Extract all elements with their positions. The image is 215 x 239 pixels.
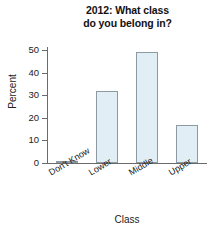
bar xyxy=(96,91,118,163)
x-axis-title: Class xyxy=(47,214,207,225)
bar xyxy=(136,52,158,163)
bar-chart: 2012: What class do you belong in? Perce… xyxy=(0,0,215,239)
y-tick-label: 50 xyxy=(9,45,39,55)
chart-title: 2012: What class do you belong in? xyxy=(40,4,215,29)
y-tick-label: 10 xyxy=(9,135,39,145)
y-tick-label: 40 xyxy=(9,68,39,78)
y-tick-label: 20 xyxy=(9,113,39,123)
y-tick-label: 30 xyxy=(9,90,39,100)
plot-area xyxy=(47,49,207,164)
y-tick-label: 0 xyxy=(9,158,39,168)
